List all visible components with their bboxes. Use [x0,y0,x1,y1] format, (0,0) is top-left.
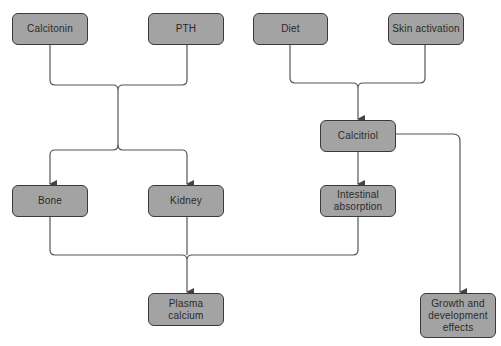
node-label: Skin activation [392,23,459,35]
node-skin-activation: Skin activation [388,13,464,45]
edge-merge-trunk [50,90,118,184]
node-label: Plasma calcium [168,298,203,322]
node-label: Intestinal absorption [334,189,383,213]
node-label: Growth and development effects [428,298,487,334]
node-diet: Diet [253,13,328,45]
node-label: Calcitonin [27,23,73,35]
node-label: PTH [176,23,197,35]
node-label: Bone [38,195,62,207]
node-label: Diet [281,23,300,35]
edge-calcitonin-pth-merge [50,45,187,90]
edge-to-kidney [118,145,187,184]
node-kidney: Kidney [148,185,224,217]
edge-calcitriol-growth [395,134,460,292]
edge-to-plasma-merge [50,217,358,260]
node-growth-development-effects: Growth and development effects [420,293,496,338]
node-label: Calcitriol [338,130,378,142]
node-label: Kidney [170,195,202,207]
edge-diet-skin-merge [290,45,425,88]
node-calcitonin: Calcitonin [12,13,88,45]
node-intestinal-absorption: Intestinal absorption [320,185,396,217]
node-bone: Bone [12,185,88,217]
node-pth: PTH [148,13,224,45]
node-plasma-calcium: Plasma calcium [148,293,224,326]
node-calcitriol: Calcitriol [320,120,396,152]
